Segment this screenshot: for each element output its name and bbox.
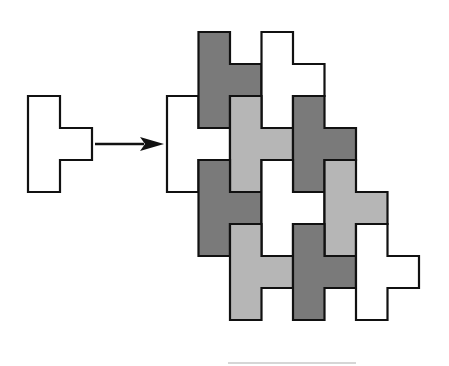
source-t-tile: [28, 96, 92, 192]
tiling-diagram: [0, 0, 449, 366]
t-tile-tessellation: [167, 32, 419, 320]
bottom-rule: [228, 362, 356, 364]
source-t-tetromino: [28, 96, 92, 192]
mapping-arrow: [95, 137, 164, 151]
tile-w4: [356, 224, 419, 320]
